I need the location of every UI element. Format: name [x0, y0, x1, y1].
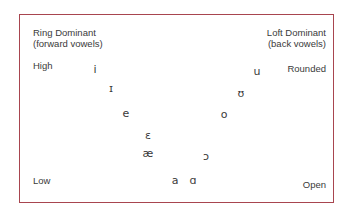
- back-vowels-label: (back vowels): [268, 38, 326, 49]
- vowel-near-close-back: ʊ: [238, 88, 245, 100]
- rounded-label: Rounded: [287, 63, 326, 74]
- open-label: Open: [303, 179, 326, 190]
- high-label: High: [33, 60, 53, 71]
- vowel-u: u: [254, 66, 261, 78]
- low-label: Low: [33, 175, 50, 186]
- vowel-open-back: ɑ: [190, 175, 197, 187]
- vowel-ash: æ: [143, 148, 154, 160]
- vowel-i: i: [93, 64, 96, 76]
- forward-vowels-label: (forward vowels): [33, 38, 103, 49]
- vowel-e: e: [123, 108, 130, 120]
- vowel-a: a: [172, 175, 179, 187]
- vowel-o: o: [221, 109, 228, 121]
- loft-dominant-label: Loft Dominant: [267, 27, 326, 38]
- vowel-open-mid-front: ɛ: [145, 130, 151, 142]
- vowel-open-mid-back: ɔ: [203, 151, 209, 163]
- ring-dominant-label: Ring Dominant: [33, 27, 96, 38]
- vowel-near-close-front: ɪ: [109, 83, 113, 95]
